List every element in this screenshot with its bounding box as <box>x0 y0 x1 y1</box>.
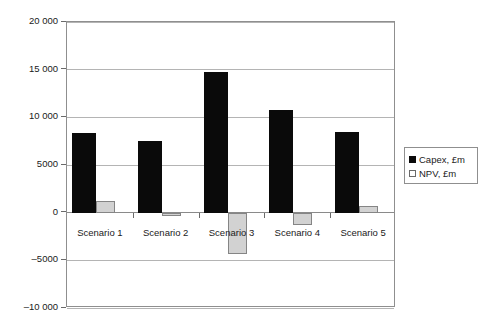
plot-area: Scenario 1Scenario 2Scenario 3Scenario 4… <box>66 21 395 307</box>
y-axis-tick-label-wrap: –5000 <box>0 254 58 264</box>
y-axis-tick-label-wrap: 20 000 <box>0 16 58 26</box>
y-axis-tick-label: –5000 <box>2 254 58 264</box>
y-axis-tick-label: 15 000 <box>2 64 58 74</box>
y-axis-tick-label: 0 <box>2 207 58 217</box>
bar-npv <box>293 213 312 225</box>
legend-swatch-capex-icon <box>409 156 416 163</box>
bar-capex <box>269 110 293 213</box>
y-axis-tick-label-wrap: –10 000 <box>0 302 58 312</box>
legend-swatch-npv-icon <box>409 170 416 177</box>
y-axis-tick-label: 10 000 <box>2 111 58 121</box>
bar-npv <box>96 201 115 212</box>
bar-capex <box>72 133 96 213</box>
y-axis-tick-label-wrap: 0 <box>0 207 58 217</box>
x-axis-category-label: Scenario 5 <box>330 227 396 238</box>
gridline <box>67 69 394 70</box>
gridline <box>67 260 394 261</box>
x-axis-category-label: Scenario 2 <box>133 227 199 238</box>
y-axis-tick-label: 5000 <box>2 159 58 169</box>
x-axis-tick <box>330 213 331 218</box>
bar-capex <box>138 141 162 213</box>
x-axis-category-label: Scenario 3 <box>199 227 265 238</box>
x-axis-category-label: Scenario 4 <box>264 227 330 238</box>
bar-chart: 20 00015 00010 00050000–5000–10 000 Scen… <box>0 0 486 328</box>
legend-item-capex: Capex, £m <box>409 152 477 166</box>
y-axis-tick-label: –10 000 <box>2 302 58 312</box>
y-axis-tick-label-wrap: 10 000 <box>0 111 58 121</box>
legend-label-npv: NPV, £m <box>419 168 456 179</box>
legend: Capex, £m NPV, £m <box>404 147 478 184</box>
y-axis-tick-label: 20 000 <box>2 16 58 26</box>
x-axis-category-label: Scenario 1 <box>67 227 133 238</box>
bar-capex <box>335 132 359 213</box>
x-axis-tick <box>133 213 134 218</box>
legend-item-npv: NPV, £m <box>409 166 477 180</box>
x-axis-tick <box>199 213 200 218</box>
legend-label-capex: Capex, £m <box>419 154 465 165</box>
bar-npv <box>359 206 378 213</box>
bar-capex <box>204 72 228 213</box>
y-axis-tick-label-wrap: 5000 <box>0 159 58 169</box>
y-axis-tick-label-wrap: 15 000 <box>0 64 58 74</box>
gridline <box>67 117 394 118</box>
x-axis-tick <box>264 213 265 218</box>
gridline <box>67 22 394 23</box>
gridline <box>67 308 394 309</box>
bar-npv <box>162 213 181 217</box>
